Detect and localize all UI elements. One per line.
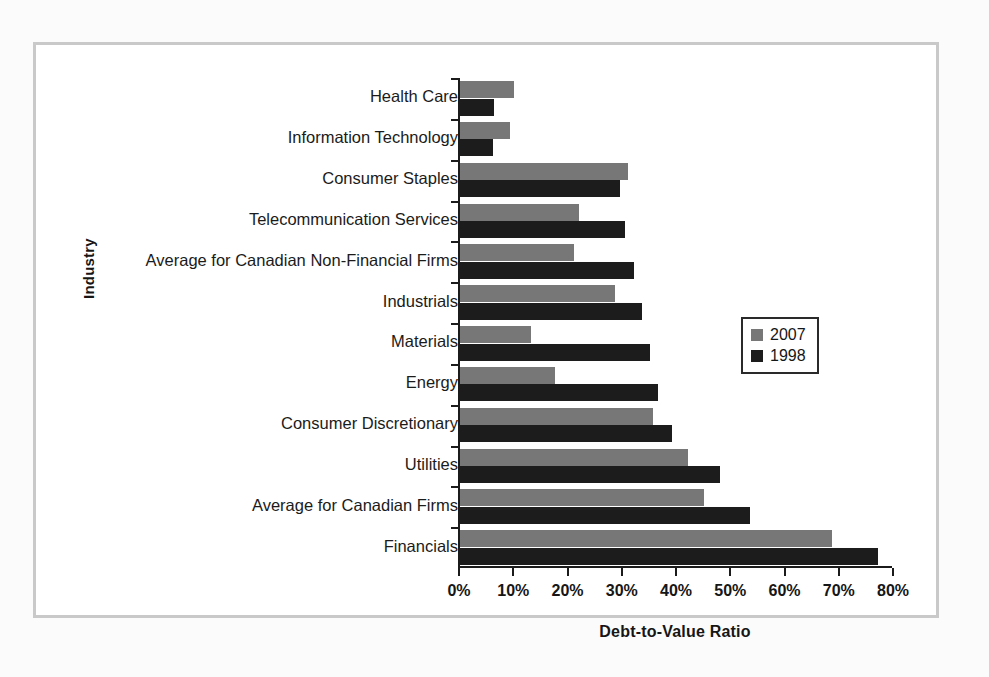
plot-area: 0%10%20%30%40%50%60%70%80% xyxy=(458,78,892,568)
bar-group xyxy=(460,201,892,242)
bar-group xyxy=(460,364,892,405)
category-label: Average for Canadian Firms xyxy=(76,496,458,515)
y-axis-tick xyxy=(451,446,459,448)
category-label: Industrials xyxy=(76,292,458,311)
bar-1998 xyxy=(460,466,720,483)
category-label: Utilities xyxy=(76,455,458,474)
bar-group xyxy=(460,405,892,446)
figure-frame: Industry Health CareInformation Technolo… xyxy=(33,42,939,618)
bar-1998 xyxy=(460,303,642,320)
bar-2007 xyxy=(460,204,579,221)
y-axis-tick xyxy=(451,486,459,488)
category-label: Materials xyxy=(76,332,458,351)
category-label: Health Care xyxy=(76,87,458,106)
x-axis-tick-label: 40% xyxy=(646,582,706,600)
legend-label: 2007 xyxy=(770,326,806,344)
x-axis-tick xyxy=(458,568,460,576)
bar-2007 xyxy=(460,326,531,343)
x-axis-tick-label: 50% xyxy=(700,582,760,600)
bar-2007 xyxy=(460,408,653,425)
x-axis-tick-label: 30% xyxy=(592,582,652,600)
x-axis-tick xyxy=(512,568,514,576)
bar-1998 xyxy=(460,548,878,565)
category-label: Information Technology xyxy=(76,128,458,147)
bar-group xyxy=(460,486,892,527)
bar-2007 xyxy=(460,489,704,506)
x-axis-tick xyxy=(892,568,894,576)
y-axis-tick xyxy=(451,527,459,529)
category-label-column: Health CareInformation TechnologyConsume… xyxy=(76,78,458,568)
y-axis-tick xyxy=(451,160,459,162)
category-label: Energy xyxy=(76,373,458,392)
bar-1998 xyxy=(460,99,494,116)
bar-group xyxy=(460,527,892,568)
bar-1998 xyxy=(460,139,493,156)
y-axis-tick xyxy=(451,282,459,284)
bar-1998 xyxy=(460,344,650,361)
x-axis-tick-label: 70% xyxy=(809,582,869,600)
y-axis-tick xyxy=(451,241,459,243)
x-axis-tick-label: 10% xyxy=(483,582,543,600)
y-axis-tick xyxy=(451,323,459,325)
x-axis-tick xyxy=(784,568,786,576)
bar-1998 xyxy=(460,221,625,238)
category-label: Consumer Discretionary xyxy=(76,414,458,433)
y-axis-tick xyxy=(451,364,459,366)
bar-group xyxy=(460,241,892,282)
bar-2007 xyxy=(460,244,574,261)
x-axis-tick-label: 20% xyxy=(538,582,598,600)
bar-2007 xyxy=(460,449,688,466)
bar-2007 xyxy=(460,122,510,139)
bar-group xyxy=(460,446,892,487)
legend-entry: 1998 xyxy=(751,345,806,366)
category-label: Telecommunication Services xyxy=(76,210,458,229)
bar-1998 xyxy=(460,507,750,524)
bar-chart: Industry Health CareInformation Technolo… xyxy=(36,45,942,621)
y-axis-tick xyxy=(451,78,459,80)
bar-2007 xyxy=(460,163,628,180)
x-axis-title: Debt-to-Value Ratio xyxy=(458,623,892,641)
category-label: Average for Canadian Non-Financial Firms xyxy=(76,251,458,270)
bar-1998 xyxy=(460,262,634,279)
legend-entry: 2007 xyxy=(751,324,806,345)
bar-1998 xyxy=(460,180,620,197)
category-label: Financials xyxy=(76,537,458,556)
y-axis-tick xyxy=(451,405,459,407)
bar-group xyxy=(460,78,892,119)
bar-group xyxy=(460,119,892,160)
chart-legend: 20071998 xyxy=(741,317,819,374)
x-axis-tick xyxy=(621,568,623,576)
bar-1998 xyxy=(460,384,658,401)
bar-1998 xyxy=(460,425,672,442)
y-axis-tick xyxy=(451,119,459,121)
legend-swatch-icon xyxy=(751,350,763,362)
bar-group xyxy=(460,160,892,201)
bar-2007 xyxy=(460,81,514,98)
bar-group xyxy=(460,323,892,364)
x-axis-tick xyxy=(838,568,840,576)
x-axis-tick-label: 80% xyxy=(863,582,923,600)
bar-2007 xyxy=(460,367,555,384)
x-axis-tick xyxy=(729,568,731,576)
bar-2007 xyxy=(460,285,615,302)
legend-label: 1998 xyxy=(770,347,806,365)
x-axis-tick-label: 0% xyxy=(429,582,489,600)
x-axis-tick-label: 60% xyxy=(755,582,815,600)
bar-2007 xyxy=(460,530,832,547)
x-axis-tick xyxy=(675,568,677,576)
bar-group xyxy=(460,282,892,323)
page-root: Industry Health CareInformation Technolo… xyxy=(0,0,989,677)
y-axis-tick xyxy=(451,201,459,203)
category-label: Consumer Staples xyxy=(76,169,458,188)
legend-swatch-icon xyxy=(751,329,763,341)
x-axis-tick xyxy=(567,568,569,576)
